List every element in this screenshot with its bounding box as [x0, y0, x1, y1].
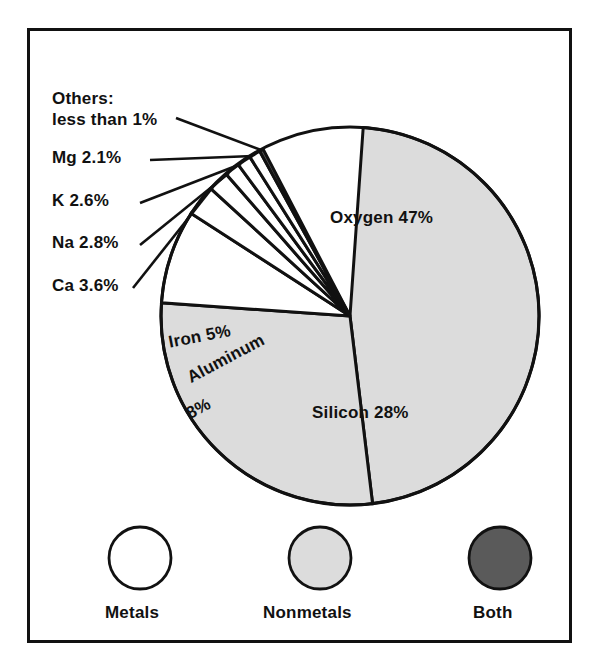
slice-label-oxygen: Oxygen 47%: [330, 208, 433, 229]
callout-ca: Ca 3.6%: [52, 276, 119, 297]
legend-label-metals: Metals: [105, 603, 159, 624]
leader-line-others: [176, 118, 261, 150]
slice-label-silicon: Silicon 28%: [312, 403, 409, 424]
metals-circle[interactable]: [109, 527, 171, 589]
callout-others-line2: less than 1%: [52, 110, 157, 131]
nonmetals-circle[interactable]: [289, 527, 351, 589]
callout-na: Na 2.8%: [52, 233, 119, 254]
pie-slice-oxygen[interactable]: [350, 128, 539, 504]
callout-mg: Mg 2.1%: [52, 148, 121, 169]
figure-canvas: Others: less than 1% Mg 2.1% K 2.6% Na 2…: [0, 0, 595, 671]
legend-label-both: Both: [473, 603, 513, 624]
legend-label-nonmetals: Nonmetals: [263, 603, 352, 624]
callout-k: K 2.6%: [52, 191, 109, 212]
callout-others-line1: Others:: [52, 89, 114, 110]
leader-line-mg: [150, 156, 253, 160]
both-circle[interactable]: [469, 527, 531, 589]
